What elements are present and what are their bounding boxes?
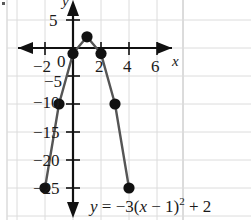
y-axis-label: y (62, 0, 69, 9)
x-axis-arrow-right (157, 42, 172, 54)
data-point (81, 31, 92, 42)
equation-lhs: y (90, 197, 98, 216)
y-tick-label-minus20: −20 (33, 152, 60, 169)
graph-figure: y x 5 0 −5 −10 −15 −20 −25 −2 2 4 6 y = … (0, 0, 251, 220)
equation-shift: − 1) (151, 197, 179, 216)
data-point (67, 48, 78, 59)
equation-coefficient: −3( (116, 197, 140, 216)
equation-constant: + 2 (189, 197, 211, 216)
equation-equals: = (102, 197, 112, 216)
x-tick-label-minus2: −2 (33, 58, 51, 75)
equation-label: y = −3(x − 1)2 + 2 (90, 198, 211, 215)
x-tick-label-0: 0 (57, 53, 66, 70)
x-axis-label: x (172, 54, 179, 69)
x-axis (18, 42, 172, 55)
y-tick-label-5: 5 (49, 12, 58, 29)
y-tick-label-minus10: −10 (33, 94, 60, 111)
equation-variable: x (139, 197, 147, 216)
x-tick-label-2: 2 (95, 58, 104, 75)
y-tick-label-minus15: −15 (33, 124, 60, 141)
y-axis (66, 0, 80, 218)
y-tick-label-minus25: −25 (33, 180, 60, 197)
data-point (123, 182, 134, 193)
x-tick-label-4: 4 (123, 58, 132, 75)
equation-exponent: 2 (179, 195, 185, 207)
data-point (109, 98, 120, 109)
x-tick-label-6: 6 (151, 58, 160, 75)
x-axis-arrow-left (18, 42, 33, 54)
